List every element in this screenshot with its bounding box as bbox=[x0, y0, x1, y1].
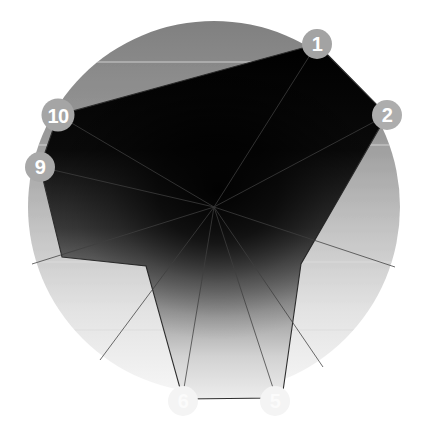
vertex-label-1[interactable]: 1 bbox=[302, 29, 332, 59]
vertex-label-text: 1 bbox=[312, 34, 323, 54]
vertex-label-5[interactable]: 5 bbox=[260, 386, 290, 416]
vertex-label-9[interactable]: 9 bbox=[25, 152, 55, 182]
chart-canvas: 1 2 9 10 6 5 bbox=[0, 0, 426, 437]
vertex-label-text: 2 bbox=[382, 105, 393, 125]
vertex-label-10[interactable]: 10 bbox=[42, 99, 75, 132]
vertex-label-text: 5 bbox=[270, 391, 281, 411]
vertex-label-text: 6 bbox=[178, 391, 189, 411]
vertex-label-2[interactable]: 2 bbox=[372, 100, 402, 130]
vertex-label-text: 9 bbox=[35, 157, 46, 177]
vertex-label-6[interactable]: 6 bbox=[168, 386, 198, 416]
radar-chart-svg bbox=[0, 0, 426, 437]
vertex-label-text: 10 bbox=[47, 105, 68, 125]
